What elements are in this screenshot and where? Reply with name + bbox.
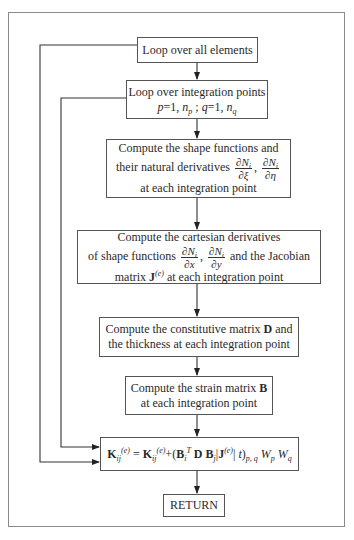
loop-elements-label: Loop over all elements [142,43,252,58]
return-box: RETURN [163,494,225,517]
shape-functions-line2: their natural derivatives ∂Ni ∂ξ , ∂Ni ∂… [116,156,281,181]
shape-functions-line1: Compute the shape functions and [119,141,279,156]
strain-matrix-box: Compute the strain matrix B at each inte… [125,376,273,415]
dNi-deta-fraction: ∂Ni ∂η [262,156,279,181]
dNi-dxi-fraction: ∂Ni ∂ξ [235,156,252,181]
cartesian-line3: matrix J(e) at each integration point [115,270,284,285]
shape-functions-box: Compute the shape functions and their na… [106,139,291,198]
dNi-dy-fraction: ∂Ni ∂y [208,245,225,270]
return-label: RETURN [170,498,218,513]
constitutive-line2: the thickness at each integration point [108,337,290,352]
stiffness-update-box: Kij(e) = Kij(e)+(BiT D Bj|J(e)| t)p, q W… [100,437,299,471]
loop-points-range: p=1, np ; q=1, nq [158,100,237,115]
constitutive-line1: Compute the constitutive matrix D and [106,322,293,337]
loop-points-label: Loop over integration points [129,85,266,100]
dNi-dx-fraction: ∂Ni ∂x [181,245,198,270]
strain-line2: at each integration point [141,396,257,411]
cartesian-derivatives-box: Compute the cartesian derivatives of sha… [77,230,321,284]
shape-functions-line3: at each integration point [140,181,256,196]
constitutive-matrix-box: Compute the constitutive matrix D and th… [99,317,299,357]
strain-line1: Compute the strain matrix B [131,381,268,396]
cartesian-line2: of shape functions ∂Ni ∂x , ∂Ni ∂y and t… [88,245,310,270]
loop-elements-box: Loop over all elements [137,37,258,63]
cartesian-line1: Compute the cartesian derivatives [118,230,281,245]
stiffness-formula: Kij(e) = Kij(e)+(BiT D Bj|J(e)| t)p, q W… [107,447,292,462]
loop-integration-points-box: Loop over integration points p=1, np ; q… [126,80,268,119]
